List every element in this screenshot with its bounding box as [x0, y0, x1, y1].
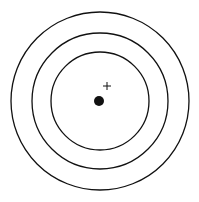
concentric-circles-diagram — [0, 0, 199, 202]
center-dot — [94, 96, 104, 106]
